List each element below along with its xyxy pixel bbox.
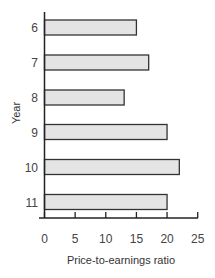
bar-year-6 bbox=[45, 20, 137, 35]
x-tick-label: 0 bbox=[41, 232, 48, 246]
y-tick-label: 9 bbox=[31, 126, 38, 140]
bar-year-9 bbox=[45, 125, 168, 140]
x-tick-label: 15 bbox=[130, 232, 144, 246]
y-tick-label: 10 bbox=[25, 161, 39, 175]
x-ticks: 0510152025 bbox=[41, 212, 205, 246]
y-tick-label: 11 bbox=[26, 196, 39, 210]
bar-year-11 bbox=[45, 195, 168, 210]
y-axis-title: Year bbox=[10, 102, 22, 125]
y-tick-label: 8 bbox=[31, 91, 38, 105]
y-tick-label: 7 bbox=[31, 56, 38, 70]
bar-year-8 bbox=[45, 90, 125, 105]
bar-year-10 bbox=[45, 160, 180, 175]
y-tick-labels: 67891011 bbox=[25, 21, 39, 210]
bars-group bbox=[45, 20, 180, 210]
bar-chart: 67891011 0510152025 Price-to-earnings ra… bbox=[0, 0, 215, 278]
x-tick-label: 5 bbox=[72, 232, 79, 246]
x-tick-label: 10 bbox=[99, 232, 113, 246]
y-tick-label: 6 bbox=[31, 21, 38, 35]
x-axis-title: Price-to-earnings ratio bbox=[67, 254, 175, 266]
x-tick-label: 25 bbox=[191, 232, 205, 246]
x-tick-label: 20 bbox=[160, 232, 174, 246]
bar-year-7 bbox=[45, 55, 149, 70]
